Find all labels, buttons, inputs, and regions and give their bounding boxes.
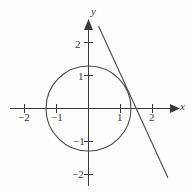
x-tick-label--1: −1 bbox=[51, 112, 63, 123]
tangent-line-curve bbox=[99, 26, 169, 178]
x-tick-label--2: −2 bbox=[18, 112, 30, 123]
x-axis-arrow-icon bbox=[170, 104, 180, 113]
x-tick-label-1: 1 bbox=[117, 112, 123, 123]
graph-figure: −2 −1 1 2 2 1 −1 −2 x y bbox=[0, 0, 193, 193]
y-axis-arrow-icon bbox=[84, 19, 93, 30]
y-tick-label-2: 2 bbox=[75, 39, 81, 50]
x-axis-label: x bbox=[180, 101, 185, 112]
x-tick-label-2: 2 bbox=[149, 112, 155, 123]
y-tick-label-1: 1 bbox=[78, 71, 84, 82]
y-axis-label: y bbox=[91, 6, 96, 17]
plot-canvas bbox=[0, 0, 193, 193]
y-tick-label--2: −2 bbox=[72, 169, 84, 180]
y-tick-label--1: −1 bbox=[73, 136, 85, 147]
